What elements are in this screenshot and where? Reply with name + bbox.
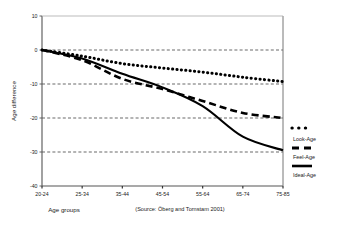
series-line-look-age bbox=[42, 50, 283, 82]
figure-container: 100-10-20-30-4020-2425-3435-4445-5455-64… bbox=[0, 0, 349, 228]
y-tick-label: -30 bbox=[30, 149, 38, 155]
x-tick-label: 65-74 bbox=[236, 191, 249, 197]
y-tick-label: -10 bbox=[30, 81, 38, 87]
x-tick-label: 75-85 bbox=[276, 191, 289, 197]
legend-label-ideal-age: Ideal-Age bbox=[293, 172, 316, 178]
legend-label-feel-age: Feel-Age bbox=[293, 154, 315, 160]
legend-label-look-age: Look-Age bbox=[293, 136, 316, 142]
series-line-ideal-age bbox=[42, 50, 283, 150]
x-tick-label: 55-64 bbox=[196, 191, 209, 197]
x-tick-label: 45-54 bbox=[156, 191, 169, 197]
y-tick-label: 10 bbox=[32, 13, 38, 19]
y-tick-label: 0 bbox=[35, 47, 38, 53]
x-tick-label: 25-34 bbox=[76, 191, 89, 197]
y-tick-label: -40 bbox=[30, 183, 38, 189]
x-axis-title: Age groups bbox=[48, 206, 80, 213]
y-tick-label: -20 bbox=[30, 115, 38, 121]
y-axis-title: Age difference bbox=[10, 81, 17, 121]
source-caption: (Source: Öberg and Tornstam 2001) bbox=[135, 206, 225, 212]
x-tick-label: 35-44 bbox=[116, 191, 129, 197]
x-tick-label: 20-24 bbox=[35, 191, 48, 197]
line-chart: 100-10-20-30-4020-2425-3435-4445-5455-64… bbox=[0, 0, 349, 228]
